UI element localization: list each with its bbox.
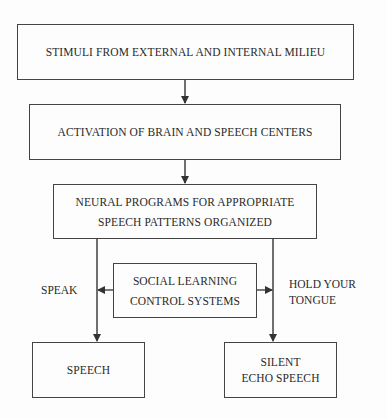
silent-echo-speech-box: SILENT ECHO SPEECH [224,342,337,398]
social-text-line2: CONTROL SYSTEMS [130,291,240,311]
speech-box: SPEECH [32,342,145,398]
hold-tongue-label: HOLD YOUR TONGUE [289,276,356,308]
stimuli-text: STIMULI FROM EXTERNAL AND INTERNAL MILIE… [46,42,326,62]
social-learning-box: SOCIAL LEARNING CONTROL SYSTEMS [113,263,257,318]
social-text-line1: SOCIAL LEARNING [133,271,237,291]
activation-box: ACTIVATION OF BRAIN AND SPEECH CENTERS [29,104,341,160]
stimuli-box: STIMULI FROM EXTERNAL AND INTERNAL MILIE… [17,24,354,80]
speak-label: SPEAK [41,282,77,298]
neural-text-line2: SPEECH PATTERNS ORGANIZED [98,212,272,232]
silent-text-line1: SILENT [260,354,300,370]
neural-text-line1: NEURAL PROGRAMS FOR APPROPRIATE [76,192,295,212]
activation-text: ACTIVATION OF BRAIN AND SPEECH CENTERS [57,122,312,142]
hold-label-line1: HOLD YOUR [289,276,356,292]
speech-text: SPEECH [67,360,110,380]
hold-label-line2: TONGUE [289,292,356,308]
neural-programs-box: NEURAL PROGRAMS FOR APPROPRIATE SPEECH P… [53,184,317,239]
silent-text-line2: ECHO SPEECH [241,370,319,386]
